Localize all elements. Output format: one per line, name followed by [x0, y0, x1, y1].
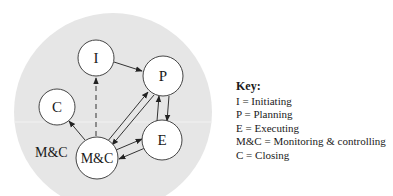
node-executing: E: [142, 120, 182, 160]
node-planning: P: [143, 56, 183, 96]
legend: Key: I = Initiating P = Planning E = Exe…: [236, 80, 386, 162]
area-label-mc: M&C: [35, 145, 68, 160]
legend-item: M&C = Monitoring & controlling: [236, 135, 386, 149]
legend-item: P = Planning: [236, 108, 386, 122]
node-label: E: [157, 132, 166, 148]
node-closing: C: [39, 89, 75, 125]
node-label: C: [52, 99, 62, 115]
legend-item: E = Executing: [236, 122, 386, 136]
legend-item: I = Initiating: [236, 95, 386, 109]
legend-item: C = Closing: [236, 149, 386, 163]
node-initiating: I: [78, 40, 114, 76]
node-label: P: [159, 68, 167, 84]
node-label: I: [94, 50, 99, 66]
legend-title: Key:: [236, 80, 386, 94]
node-label: M&C: [81, 151, 114, 166]
node-monitoring-controlling: M&C: [76, 137, 118, 179]
